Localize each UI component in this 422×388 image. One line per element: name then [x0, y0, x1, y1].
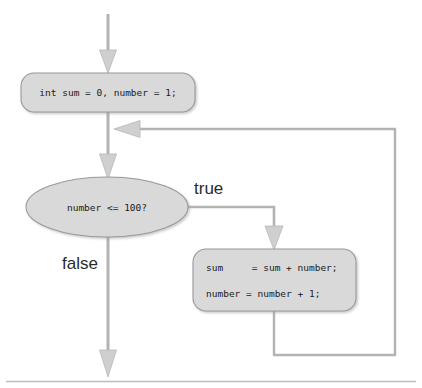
node-body-label-line2: number = number + 1;: [206, 288, 320, 299]
connector-join-to-condition: [100, 130, 117, 179]
node-body-label-line1: sum = sum + number;: [206, 262, 338, 273]
flowchart-canvas: int sum = 0, number = 1; number <= 100? …: [0, 0, 422, 388]
node-body-shape[interactable]: [193, 249, 356, 311]
connector-true-branch: [188, 206, 283, 250]
connector-loopback-path: [273, 128, 396, 356]
label-false-branch: false: [62, 254, 98, 273]
label-true-branch: true: [194, 179, 223, 198]
connector-false-branch: [100, 236, 117, 377]
node-condition-label: number <= 100?: [67, 202, 147, 213]
connector-entry-arrow: [100, 14, 117, 73]
node-init-label: int sum = 0, number = 1;: [39, 87, 176, 98]
flowchart-svg: int sum = 0, number = 1; number <= 100? …: [0, 0, 422, 388]
node-body[interactable]: [193, 249, 356, 311]
connector-loopback-arrow: [114, 121, 396, 138]
